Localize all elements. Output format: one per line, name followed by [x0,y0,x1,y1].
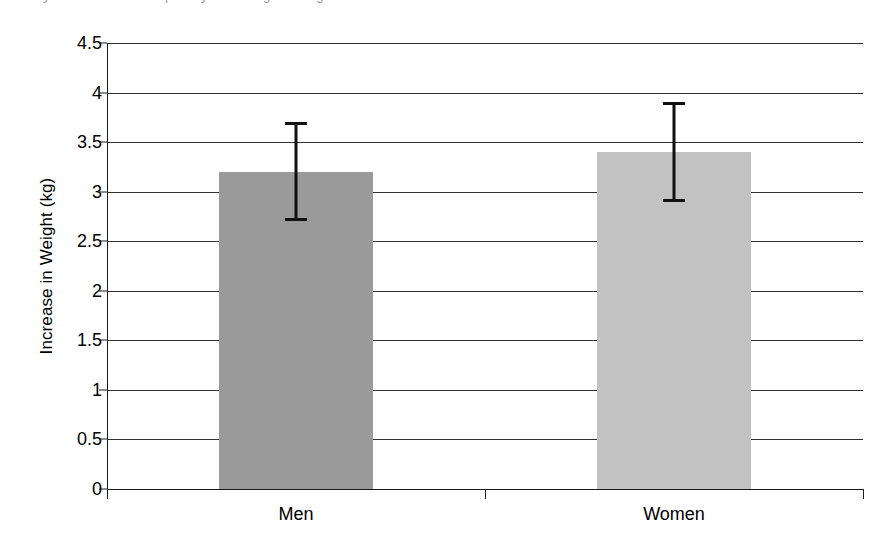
y-tick-mark [99,191,107,192]
error-bar-stem [673,102,676,201]
error-bar-men [280,122,312,221]
y-tick-mark [99,389,107,390]
error-bar-women [658,102,690,201]
x-tick-mark [485,489,486,499]
y-tick-mark [99,43,107,44]
error-bar-cap-bottom [285,218,307,221]
x-tick-mark [863,489,864,499]
y-tick-mark [99,439,107,440]
error-bar-stem [295,122,298,221]
bar-chart-figure: study has been used to quantify the chan… [0,0,889,544]
gridline [107,43,863,44]
x-tick-label-men: Men [278,503,313,525]
y-tick-mark [99,241,107,242]
y-tick-mark [99,489,107,490]
x-axis-tick-labels: MenWomen [107,503,864,533]
y-tick-mark [99,340,107,341]
gridline [107,142,863,143]
gridline [107,93,863,94]
x-tick-mark [107,489,108,499]
error-bar-cap-bottom [663,199,685,202]
plot-area [107,43,863,489]
y-tick-mark [99,290,107,291]
y-tick-mark [99,92,107,93]
x-tick-label-women: Women [643,503,705,525]
cut-off-caption-sliver: study has been used to quantify the chan… [0,0,889,12]
bar-women[interactable] [597,152,751,489]
y-axis-tick-labels: 00.511.522.533.544.5 [50,0,102,544]
y-tick-mark [99,142,107,143]
